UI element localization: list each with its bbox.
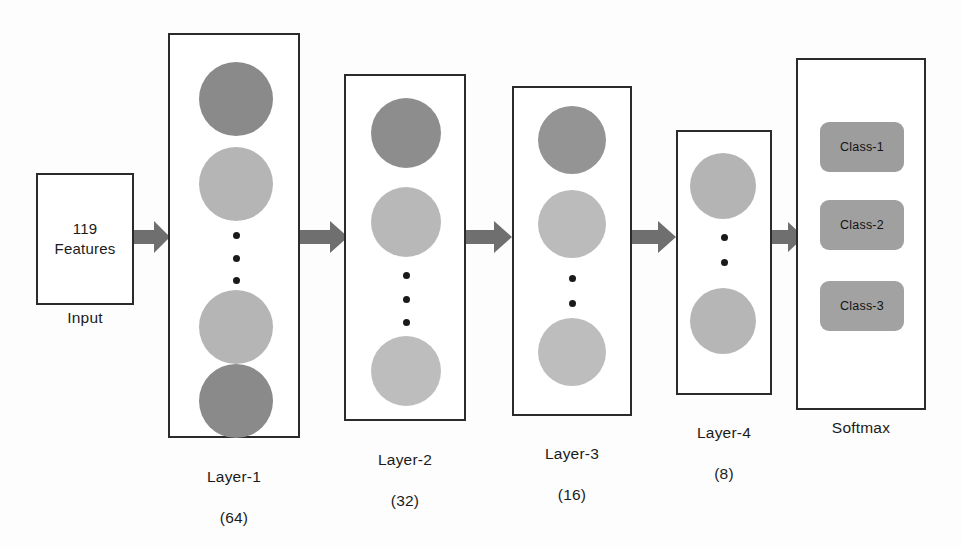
arrow-icon	[134, 217, 170, 257]
layer-1-ellipsis	[232, 232, 240, 284]
layer-4-caption-name: Layer-4	[664, 423, 784, 443]
layer-2-neuron-3	[371, 336, 441, 406]
layer-1-caption: Layer-1 (64)	[168, 447, 300, 547]
arrow-input-to-layer-1	[134, 217, 170, 257]
softmax-class-2-label: Class-2	[840, 218, 884, 232]
layer-2-ellipsis	[402, 272, 410, 326]
ellipsis-dot	[569, 275, 576, 282]
softmax-class-3-label: Class-3	[840, 299, 884, 313]
layer-2-caption-count: (32)	[344, 491, 466, 511]
softmax-class-1-chip: Class-1	[820, 122, 904, 172]
ellipsis-dot	[233, 232, 240, 239]
layer-4-neuron-1	[690, 153, 756, 219]
layer-3-neuron-1	[538, 106, 606, 174]
softmax-caption: Softmax	[796, 418, 926, 438]
ellipsis-dot	[233, 277, 240, 284]
layer-3-neuron-2	[538, 190, 606, 258]
input-box: 119 Features	[36, 173, 134, 305]
softmax-class-2-chip: Class-2	[820, 200, 904, 250]
layer-4-neuron-2	[690, 288, 756, 354]
layer-1-neuron-2	[199, 147, 273, 221]
layer-1-caption-count: (64)	[168, 508, 300, 528]
arrow-icon	[300, 217, 348, 257]
layer-3-ellipsis	[568, 275, 576, 307]
input-box-text: 119 Features	[38, 219, 132, 260]
ellipsis-dot	[403, 319, 410, 326]
softmax-class-3-chip: Class-3	[820, 281, 904, 331]
layer-1-neuron-3	[199, 290, 273, 364]
ellipsis-dot	[721, 234, 728, 241]
ellipsis-dot	[569, 300, 576, 307]
layer-4-caption-count: (8)	[664, 464, 784, 484]
arrow-icon	[632, 217, 676, 257]
layer-1-neuron-1	[199, 62, 273, 136]
ellipsis-dot	[403, 296, 410, 303]
ellipsis-dot	[233, 255, 240, 262]
layer-3-neuron-3	[538, 318, 606, 386]
layer-1-neuron-4	[199, 364, 273, 438]
ellipsis-dot	[721, 259, 728, 266]
layer-2-caption-name: Layer-2	[344, 450, 466, 470]
diagram-canvas: 119 Features Input Layer-1 (64)	[0, 0, 961, 547]
layer-3-caption-name: Layer-3	[512, 444, 632, 464]
layer-2-caption: Layer-2 (32)	[344, 430, 466, 532]
input-features-word: Features	[38, 239, 132, 259]
layer-4-ellipsis	[720, 234, 728, 266]
input-caption: Input	[36, 308, 134, 328]
layer-1-caption-name: Layer-1	[168, 467, 300, 487]
arrow-layer-3-to-layer-4	[632, 217, 676, 257]
layer-2-neuron-2	[371, 187, 441, 257]
ellipsis-dot	[403, 272, 410, 279]
softmax-class-1-label: Class-1	[840, 140, 884, 154]
arrow-layer-1-to-layer-2	[300, 217, 348, 257]
layer-3-caption: Layer-3 (16)	[512, 424, 632, 526]
input-features-number: 119	[38, 219, 132, 239]
arrow-icon	[466, 217, 512, 257]
layer-2-neuron-1	[371, 98, 441, 168]
arrow-layer-2-to-layer-3	[466, 217, 512, 257]
layer-4-caption: Layer-4 (8)	[664, 403, 784, 505]
layer-3-caption-count: (16)	[512, 485, 632, 505]
